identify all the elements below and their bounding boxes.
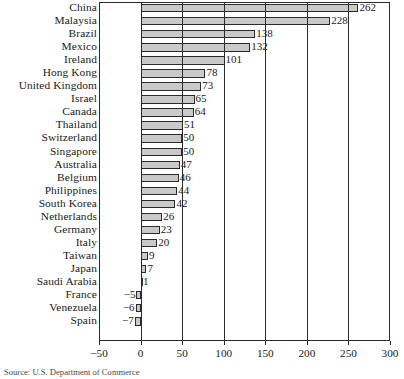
bar[interactable]: [135, 317, 141, 325]
bar[interactable]: [141, 174, 179, 182]
bar-zone: 73: [99, 80, 390, 93]
category-label: Hong Kong: [0, 66, 97, 79]
axis-tick: [99, 341, 100, 345]
bar-zone: 9: [99, 250, 390, 263]
category-label: Philippines: [0, 184, 97, 197]
category-label: Italy: [0, 236, 97, 249]
bar[interactable]: [141, 17, 331, 25]
bar[interactable]: [141, 187, 178, 195]
bar[interactable]: [141, 121, 183, 129]
bar[interactable]: [136, 304, 141, 312]
value-label: 50: [183, 131, 194, 144]
bar-zone: 47: [99, 159, 390, 172]
bar-zone: 46: [99, 172, 390, 185]
value-label: 64: [195, 105, 206, 118]
bar-zone: 20: [99, 237, 390, 250]
value-label: −5: [124, 288, 136, 301]
category-label: Germany: [0, 223, 97, 236]
value-label: −7: [122, 314, 134, 327]
category-label: Taiwan: [0, 249, 97, 262]
axis-tick: [265, 341, 266, 345]
value-label: 51: [184, 118, 195, 131]
value-label: 7: [147, 262, 153, 275]
bar[interactable]: [141, 161, 180, 169]
category-label: France: [0, 288, 97, 301]
bar[interactable]: [141, 200, 176, 208]
value-label: 101: [226, 53, 243, 66]
bar[interactable]: [141, 30, 256, 38]
x-tick-label: 300: [360, 346, 404, 360]
value-label: 47: [181, 158, 192, 171]
axis-tick: [182, 341, 183, 345]
bar[interactable]: [141, 95, 195, 103]
value-label: 65: [196, 92, 207, 105]
bar-zone: 1: [99, 276, 390, 289]
bar[interactable]: [141, 213, 163, 221]
value-label: 42: [176, 197, 187, 210]
bar[interactable]: [141, 226, 160, 234]
bar[interactable]: [141, 252, 148, 260]
bar-zone: 64: [99, 106, 390, 119]
value-label: 26: [163, 210, 174, 223]
bar-zone: 44: [99, 185, 390, 198]
bar[interactable]: [141, 69, 206, 77]
chart-row: Spain−7: [0, 315, 404, 328]
category-label: Malaysia: [0, 14, 97, 27]
bar[interactable]: [141, 265, 147, 273]
category-label: China: [0, 1, 97, 14]
bar-zone: 132: [99, 41, 390, 54]
axis-tick: [390, 341, 391, 345]
bar[interactable]: [136, 291, 140, 299]
value-label: 132: [251, 40, 268, 53]
value-label: 20: [158, 236, 169, 249]
bar[interactable]: [141, 43, 251, 51]
bar-zone: 51: [99, 119, 390, 132]
category-label: Ireland: [0, 53, 97, 66]
value-label: 138: [256, 27, 273, 40]
value-label: 50: [183, 145, 194, 158]
category-label: Belgium: [0, 171, 97, 184]
bar-zone: 50: [99, 132, 390, 145]
value-label: 78: [206, 66, 217, 79]
category-label: Brazil: [0, 27, 97, 40]
bar[interactable]: [141, 108, 194, 116]
source-note: Source: U.S. Department of Commerce: [4, 367, 140, 378]
category-label: Thailand: [0, 118, 97, 131]
bar-zone: 228: [99, 15, 390, 28]
category-label: Saudi Arabia: [0, 275, 97, 288]
value-label: 262: [359, 1, 376, 14]
category-label: Mexico: [0, 40, 97, 53]
bar[interactable]: [141, 148, 183, 156]
category-label: South Korea: [0, 197, 97, 210]
category-label: Canada: [0, 105, 97, 118]
value-label: 44: [178, 184, 189, 197]
bar-zone: 65: [99, 93, 390, 106]
category-label: Spain: [0, 314, 97, 327]
bar-zone: −6: [99, 302, 390, 315]
bar-zone: 50: [99, 146, 390, 159]
axis-tick: [348, 341, 349, 345]
bar-zone: 78: [99, 67, 390, 80]
value-label: 1: [143, 275, 149, 288]
bar-zone: −7: [99, 315, 390, 328]
category-label: Israel: [0, 92, 97, 105]
bar-zone: 42: [99, 198, 390, 211]
axis-tick: [224, 341, 225, 345]
bar[interactable]: [141, 4, 359, 12]
value-label: 73: [202, 79, 213, 92]
bar-chart: China262Malaysia228Brazil138Mexico132Ire…: [0, 0, 404, 379]
chart-rows: China262Malaysia228Brazil138Mexico132Ire…: [0, 2, 404, 328]
bar-zone: −5: [99, 289, 390, 302]
category-label: Venezuela: [0, 301, 97, 314]
value-label: 23: [161, 223, 172, 236]
bar[interactable]: [141, 82, 202, 90]
category-label: Netherlands: [0, 210, 97, 223]
bar[interactable]: [141, 56, 225, 64]
axis-tick: [307, 341, 308, 345]
value-label: −6: [123, 301, 135, 314]
axis-tick: [141, 341, 142, 345]
category-label: Switzerland: [0, 131, 97, 144]
bar[interactable]: [141, 239, 158, 247]
bar[interactable]: [141, 134, 183, 142]
category-label: United Kingdom: [0, 79, 97, 92]
